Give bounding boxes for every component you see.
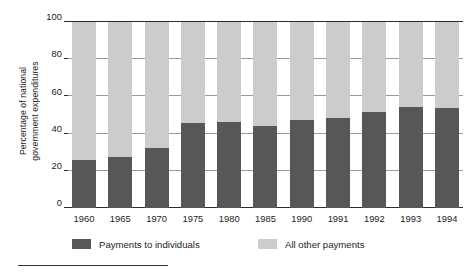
y-axis-tick-label-0: 0 — [57, 197, 62, 208]
x-axis-tick-label-1965: 1965 — [110, 213, 131, 224]
x-axis-tick-label-1990: 1990 — [291, 213, 312, 224]
bar-segment-all-other-payments-1975[interactable] — [181, 22, 205, 123]
stacked-bar-1992[interactable] — [362, 22, 386, 208]
stacked-bar-1960[interactable] — [72, 22, 96, 208]
bar-segment-all-other-payments-1991[interactable] — [326, 22, 350, 118]
plot-inner: 020406080100 196019651970197519801985199… — [68, 22, 463, 208]
bar-segment-payments-to-individuals-1994[interactable] — [435, 108, 459, 208]
bar-slot-1985[interactable]: 1985 — [253, 22, 277, 208]
stacked-bar-1993[interactable] — [399, 22, 423, 208]
bar-slot-1990[interactable]: 1990 — [290, 22, 314, 208]
stacked-bar-1985[interactable] — [253, 22, 277, 208]
x-axis-tick-label-1993: 1993 — [400, 213, 421, 224]
y-axis-tick-label-100: 100 — [46, 11, 62, 22]
y-axis-title-line-2: government expenditures — [29, 61, 41, 160]
legend-item-all-other-payments[interactable]: All other payments — [258, 237, 364, 251]
bar-segment-all-other-payments-1965[interactable] — [108, 22, 132, 157]
x-axis-tick-label-1991: 1991 — [328, 213, 349, 224]
y-axis-tick-label-60: 60 — [52, 85, 62, 96]
y-axis-title: Percentage of national government expend… — [14, 18, 44, 203]
bar-slot-1980[interactable]: 1980 — [217, 22, 241, 208]
bar-segment-payments-to-individuals-1975[interactable] — [181, 123, 205, 208]
x-axis-tick-label-1975: 1975 — [182, 213, 203, 224]
stacked-bar-1990[interactable] — [290, 22, 314, 208]
bar-slot-1991[interactable]: 1991 — [326, 22, 350, 208]
bar-segment-payments-to-individuals-1992[interactable] — [362, 112, 386, 208]
dark-gray-swatch — [72, 239, 91, 249]
bar-segment-payments-to-individuals-1970[interactable] — [145, 148, 169, 208]
bar-slot-1975[interactable]: 1975 — [181, 22, 205, 208]
bar-slot-1993[interactable]: 1993 — [399, 22, 423, 208]
bar-segment-all-other-payments-1994[interactable] — [435, 22, 459, 108]
bar-segment-payments-to-individuals-1985[interactable] — [253, 126, 277, 208]
stacked-bar-1980[interactable] — [217, 22, 241, 208]
footer-rule — [18, 265, 168, 266]
bar-segment-all-other-payments-1980[interactable] — [217, 22, 241, 122]
stacked-bar-1975[interactable] — [181, 22, 205, 208]
legend-item-payments-to-individuals[interactable]: Payments to individuals — [72, 237, 200, 251]
bar-slot-1970[interactable]: 1970 — [145, 22, 169, 208]
bar-segment-payments-to-individuals-1993[interactable] — [399, 107, 423, 208]
bar-segment-all-other-payments-1993[interactable] — [399, 22, 423, 107]
stacked-bar-1991[interactable] — [326, 22, 350, 208]
x-axis-tick-label-1970: 1970 — [146, 213, 167, 224]
bar-segment-all-other-payments-1985[interactable] — [253, 22, 277, 126]
bar-slot-1965[interactable]: 1965 — [108, 22, 132, 208]
bar-segment-all-other-payments-1990[interactable] — [290, 22, 314, 120]
legend-label: Payments to individuals — [99, 239, 200, 250]
bar-segment-all-other-payments-1960[interactable] — [72, 22, 96, 160]
chart-figure: Percentage of national government expend… — [0, 0, 473, 272]
y-axis-tick-label-80: 80 — [52, 48, 62, 59]
bar-slot-1994[interactable]: 1994 — [435, 22, 459, 208]
y-axis-tick-label-20: 20 — [52, 159, 62, 170]
stacked-bar-1965[interactable] — [108, 22, 132, 208]
bar-segment-payments-to-individuals-1960[interactable] — [72, 160, 96, 208]
y-axis-title-line-1: Percentage of national — [18, 66, 28, 154]
bar-segment-all-other-payments-1970[interactable] — [145, 22, 169, 148]
legend-label: All other payments — [285, 239, 364, 250]
y-axis-tick-label-40: 40 — [52, 122, 62, 133]
x-axis-tick-label-1992: 1992 — [364, 213, 385, 224]
y-axis-title-text: Percentage of national government expend… — [18, 61, 41, 160]
bar-segment-payments-to-individuals-1990[interactable] — [290, 120, 314, 208]
plot-area: 020406080100 196019651970197519801985199… — [68, 22, 463, 208]
bar-slot-1960[interactable]: 1960 — [72, 22, 96, 208]
bar-segment-all-other-payments-1992[interactable] — [362, 22, 386, 112]
bar-segment-payments-to-individuals-1965[interactable] — [108, 157, 132, 208]
bar-segment-payments-to-individuals-1980[interactable] — [217, 122, 241, 208]
light-gray-swatch — [258, 239, 277, 249]
x-axis-tick-label-1980: 1980 — [219, 213, 240, 224]
x-axis-tick-label-1985: 1985 — [255, 213, 276, 224]
bar-slot-1992[interactable]: 1992 — [362, 22, 386, 208]
stacked-bar-1994[interactable] — [435, 22, 459, 208]
x-axis-tick-label-1960: 1960 — [74, 213, 95, 224]
chart-legend: Payments to individualsAll other payment… — [68, 237, 463, 253]
stacked-bar-1970[interactable] — [145, 22, 169, 208]
bar-group: 1960196519701975198019851990199119921993… — [68, 22, 463, 208]
bar-segment-payments-to-individuals-1991[interactable] — [326, 118, 350, 208]
x-axis-tick-label-1994: 1994 — [437, 213, 458, 224]
